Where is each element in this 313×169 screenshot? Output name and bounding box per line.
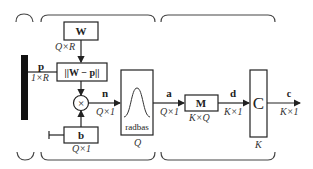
m-label: M	[196, 97, 207, 109]
output-label: c	[287, 88, 292, 99]
net-input-dims: Q×1	[96, 106, 115, 117]
m-dims: K×Q	[188, 112, 210, 123]
hidden-output-dims: Q×1	[160, 106, 179, 117]
input-bar	[21, 55, 28, 120]
competitive-size: K	[254, 139, 263, 150]
top-brace-layer2	[161, 15, 275, 22]
d-dims: K×1	[223, 106, 242, 117]
multiply-icon: ×	[78, 97, 84, 109]
radbas-label: radbas	[125, 122, 149, 132]
bottom-brace-layer1	[41, 152, 155, 160]
bias-dims: Q×1	[72, 143, 91, 154]
net-input-label: n	[102, 87, 108, 99]
hidden-output-label: a	[166, 87, 172, 99]
top-brace-input	[16, 14, 33, 22]
weight-dims: Q×R	[55, 41, 75, 52]
competitive-label: C	[253, 94, 264, 113]
d-label: d	[230, 87, 236, 99]
weight-label: W	[76, 25, 87, 37]
bias-label: b	[78, 129, 84, 141]
bottom-brace-input	[17, 152, 34, 160]
radbas-size: Q	[134, 137, 142, 148]
output-dims: K×1	[279, 106, 298, 117]
rbf-diagram: p 1×R W Q×R ||W − p|| × b Q×1 n Q×1 radb…	[0, 0, 313, 169]
bottom-brace-layer2	[161, 152, 275, 160]
top-brace-layer1	[41, 15, 155, 22]
input-label: p	[38, 60, 44, 72]
input-dims: 1×R	[31, 72, 49, 83]
distance-label: ||W − p||	[65, 67, 100, 78]
